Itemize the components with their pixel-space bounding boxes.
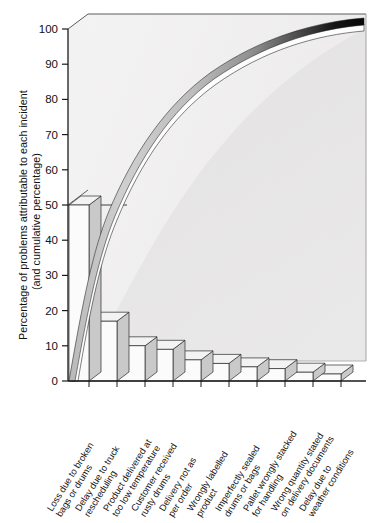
x-axis-labels: Loss due to broken bags or drums Delay d… [45,429,356,520]
y-axis-title-line1: Percentage of problems attributable to e… [17,90,29,340]
chart-canvas: 100 90 80 70 60 [0,0,380,523]
y-tick-label: 80 [45,93,58,105]
y-tick-label: 100 [39,23,58,35]
y-tick-label: 90 [45,58,58,70]
y-axis-title-line2: (and cumulative percentage) [30,153,42,290]
y-tick-label: 50 [45,199,58,211]
x-axis [68,381,366,387]
y-tick-40: 40 [45,234,68,246]
y-tick-0: 0 [52,375,68,387]
y-tick-90: 90 [45,58,68,70]
y-tick-20: 20 [45,305,68,317]
y-tick-80: 80 [45,93,68,105]
pareto-chart: 100 90 80 70 60 [0,0,380,523]
y-tick-label: 10 [45,340,58,352]
bar-side [117,312,129,381]
y-tick-label: 60 [45,164,58,176]
y-tick-100: 100 [39,23,68,35]
y-tick-label: 40 [45,234,58,246]
y-tick-50: 50 [45,199,68,211]
y-tick-label: 20 [45,305,58,317]
y-tick-label: 70 [45,129,58,141]
y-tick-70: 70 [45,129,68,141]
y-axis-title: Percentage of problems attributable to e… [17,90,42,340]
y-tick-10: 10 [45,340,68,352]
y-tick-label: 30 [45,269,58,281]
y-tick-label: 0 [52,375,58,387]
y-tick-60: 60 [45,164,68,176]
y-tick-30: 30 [45,269,68,281]
